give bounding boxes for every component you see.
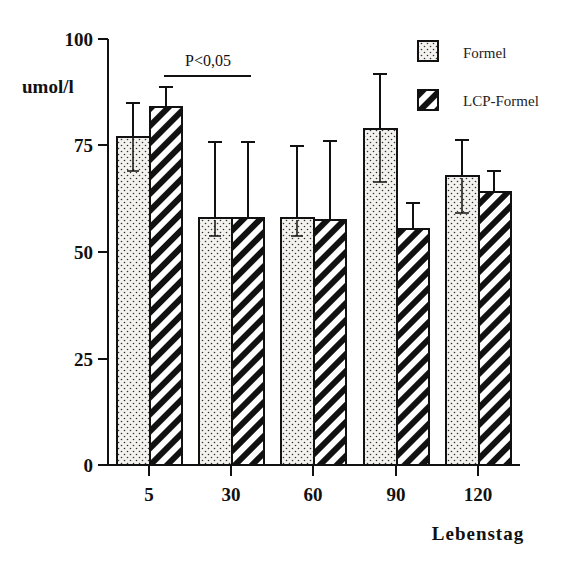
x-tick-120: 120 — [464, 484, 493, 505]
significance-annotation: P<0,05 — [164, 52, 251, 76]
bar-lcp-60 — [314, 220, 346, 465]
legend-swatch-lcp-formel — [418, 90, 438, 110]
x-tick-90: 90 — [387, 484, 406, 505]
bars — [117, 74, 511, 465]
x-axis-label: Lebenstag — [432, 523, 524, 544]
y-tick-0: 0 — [84, 455, 94, 476]
y-tick-100: 100 — [65, 29, 94, 50]
bar-lcp-30 — [232, 218, 264, 465]
bar-formel-120 — [446, 176, 479, 465]
y-axis — [98, 39, 108, 465]
legend-label-formel: Formel — [463, 45, 506, 61]
bar-formel-60 — [281, 218, 314, 465]
legend-label-lcp-formel: LCP-Formel — [463, 93, 539, 109]
x-axis — [98, 465, 520, 476]
x-tick-60: 60 — [304, 484, 323, 505]
bar-lcp-120 — [479, 192, 511, 465]
x-tick-labels: 5 30 60 90 120 — [144, 484, 492, 505]
x-tick-30: 30 — [222, 484, 241, 505]
bar-lcp-5 — [150, 107, 182, 465]
y-tick-75: 75 — [74, 135, 93, 156]
y-axis-label: umol/l — [22, 76, 74, 97]
bar-formel-5 — [117, 137, 150, 465]
y-tick-50: 50 — [74, 242, 93, 263]
bar-formel-30 — [199, 218, 232, 465]
legend-swatch-formel — [418, 41, 438, 61]
bar-chart: 100 75 50 25 0 umol/l 5 30 60 90 120 Leb… — [0, 0, 584, 568]
p-value-label: P<0,05 — [185, 52, 231, 69]
y-tick-25: 25 — [74, 349, 93, 370]
x-tick-5: 5 — [144, 484, 154, 505]
bar-lcp-90 — [397, 229, 429, 465]
legend: Formel LCP-Formel — [418, 41, 539, 110]
